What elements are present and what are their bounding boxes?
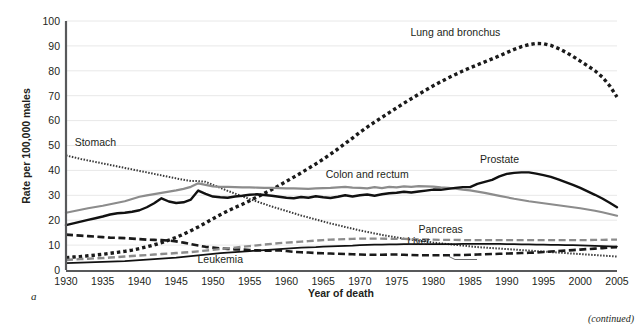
y-tick-80: 80: [48, 65, 60, 77]
x-tick-1960: 1960: [275, 275, 299, 287]
continued-note: (continued): [588, 313, 635, 325]
x-tick-1940: 1940: [128, 275, 152, 287]
y-tick-100: 100: [42, 15, 60, 27]
y-tick-60: 60: [48, 114, 60, 126]
series-label-liver: Liver: [407, 235, 430, 247]
y-tick-0: 0: [54, 264, 60, 276]
series-label-colon-and-rectum: Colon and rectum: [326, 168, 409, 180]
x-tick-1935: 1935: [91, 275, 115, 287]
y-tick-10: 10: [48, 239, 60, 251]
series-label-pancreas: Pancreas: [419, 223, 463, 235]
x-tick-2005: 2005: [605, 275, 629, 287]
x-tick-1990: 1990: [495, 275, 519, 287]
y-tick-50: 50: [48, 139, 60, 151]
x-tick-1965: 1965: [311, 275, 335, 287]
x-axis-title: Year of death: [308, 287, 374, 299]
x-tick-2000: 2000: [569, 275, 593, 287]
figure-panel-a: 0102030405060708090100 19301935194019451…: [0, 0, 641, 330]
x-tick-1980: 1980: [422, 275, 446, 287]
x-tick-1955: 1955: [238, 275, 262, 287]
x-tick-1985: 1985: [458, 275, 482, 287]
series-label-lung-and-bronchus: Lung and bronchus: [410, 26, 500, 38]
x-tick-1930: 1930: [54, 275, 78, 287]
y-tick-30: 30: [48, 189, 60, 201]
series-label-leukemia: Leukemia: [198, 253, 244, 265]
x-tick-1950: 1950: [201, 275, 225, 287]
y-tick-20: 20: [48, 214, 60, 226]
x-tick-1945: 1945: [165, 275, 189, 287]
y-tick-70: 70: [48, 90, 60, 102]
series-label-prostate: Prostate: [480, 153, 519, 165]
y-axis-title: Rate per 100,000 males: [20, 88, 32, 204]
y-tick-90: 90: [48, 40, 60, 52]
mortality-rates-line-chart: 0102030405060708090100 19301935194019451…: [0, 0, 641, 330]
x-tick-1970: 1970: [348, 275, 372, 287]
series-label-stomach: Stomach: [75, 136, 117, 148]
panel-letter: a: [31, 290, 37, 302]
y-tick-40: 40: [48, 164, 60, 176]
x-tick-1975: 1975: [385, 275, 409, 287]
x-tick-1995: 1995: [532, 275, 556, 287]
